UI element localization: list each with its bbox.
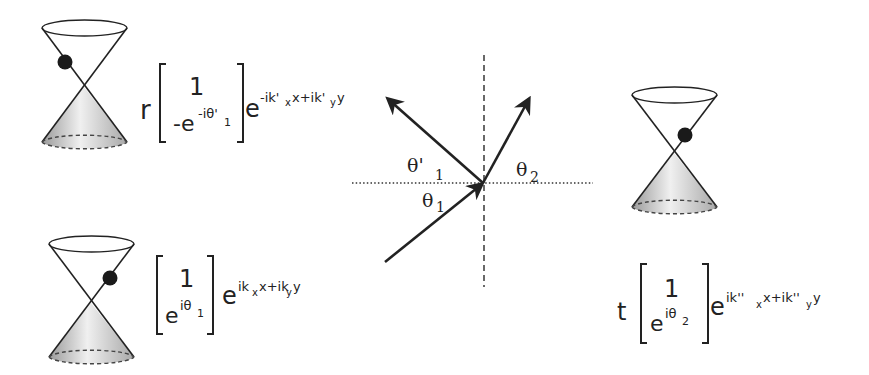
svg-text:-ik': -ik': [260, 90, 279, 105]
svg-text:ik'': ik'': [726, 290, 744, 305]
svg-text:1: 1: [436, 199, 445, 215]
svg-text:x: x: [285, 97, 291, 108]
incident-ray-arrow: [385, 184, 482, 262]
electron-ball: [103, 271, 118, 286]
dirac-cone-transmitted: [632, 87, 717, 214]
electron-ball: [678, 128, 693, 143]
svg-text:e: e: [650, 311, 664, 336]
svg-text:iθ: iθ: [665, 306, 677, 321]
transmitted-wavefunction: t 1 e iθ 2 e ik'' x x+ik'' y y: [617, 264, 821, 343]
svg-text:e: e: [245, 95, 260, 123]
svg-text:y: y: [330, 97, 336, 108]
svg-text:iθ: iθ: [180, 298, 192, 313]
svg-text:1: 1: [435, 167, 444, 183]
angle-label-transmitted: θ: [516, 158, 527, 180]
svg-text:x+ik': x+ik': [292, 90, 325, 105]
reflection-coefficient: r: [140, 95, 151, 125]
svg-text:e: e: [710, 293, 725, 321]
svg-text:y: y: [337, 90, 345, 105]
svg-text:y: y: [806, 299, 812, 310]
svg-text:1: 1: [224, 116, 231, 129]
electron-ball: [58, 55, 73, 70]
svg-text:y: y: [286, 287, 292, 298]
svg-text:x+ik: x+ik: [259, 279, 289, 294]
transmission-coefficient: t: [617, 298, 626, 326]
svg-text:2: 2: [682, 315, 689, 328]
svg-text:2: 2: [530, 169, 539, 185]
svg-text:1: 1: [664, 275, 679, 303]
svg-text:-iθ': -iθ': [198, 106, 218, 121]
svg-text:x: x: [756, 299, 762, 310]
angle-label-reflected: θ': [407, 154, 424, 176]
svg-text:x: x: [252, 287, 258, 298]
svg-text:e: e: [165, 303, 179, 328]
svg-text:-e: -e: [173, 111, 194, 136]
angle-label-incident: θ: [422, 189, 433, 211]
svg-text:ik: ik: [238, 279, 250, 294]
dirac-cone-incident: [49, 236, 134, 364]
svg-text:1: 1: [197, 307, 204, 320]
svg-text:e: e: [222, 282, 237, 310]
svg-text:1: 1: [189, 73, 204, 101]
dirac-cone-reflected: [42, 20, 127, 149]
svg-text:y: y: [293, 279, 301, 294]
incident-wavefunction: 1 e iθ 1 e ik x x+ik y y: [157, 256, 301, 334]
svg-text:y: y: [813, 290, 821, 305]
klein-tunneling-diagram: r 1 -e -iθ' 1 e -ik' x x+ik' y y 1 e iθ …: [0, 0, 869, 375]
interface-diagram: θ' 1 θ 1 θ 2: [352, 55, 593, 287]
svg-text:1: 1: [179, 265, 194, 293]
svg-text:x+ik'': x+ik'': [763, 290, 800, 305]
reflected-wavefunction: r 1 -e -iθ' 1 e -ik' x x+ik' y y: [140, 64, 345, 142]
